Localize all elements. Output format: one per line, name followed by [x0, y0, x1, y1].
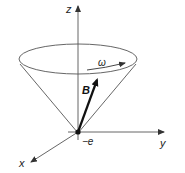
cone-edge-right — [78, 64, 136, 133]
charge-label: −e — [82, 136, 94, 147]
z-axis-label: z — [65, 3, 72, 15]
omega-label: ω — [98, 57, 106, 68]
x-axis-label: x — [18, 157, 25, 169]
omega-arrow — [87, 63, 125, 70]
precession-diagram: z y x ω B −e — [0, 0, 185, 173]
y-axis-label: y — [159, 137, 167, 149]
x-axis — [31, 132, 78, 162]
charge-dot — [75, 129, 80, 134]
cone-edge-left — [20, 64, 78, 133]
b-vector-label: B — [82, 84, 90, 96]
